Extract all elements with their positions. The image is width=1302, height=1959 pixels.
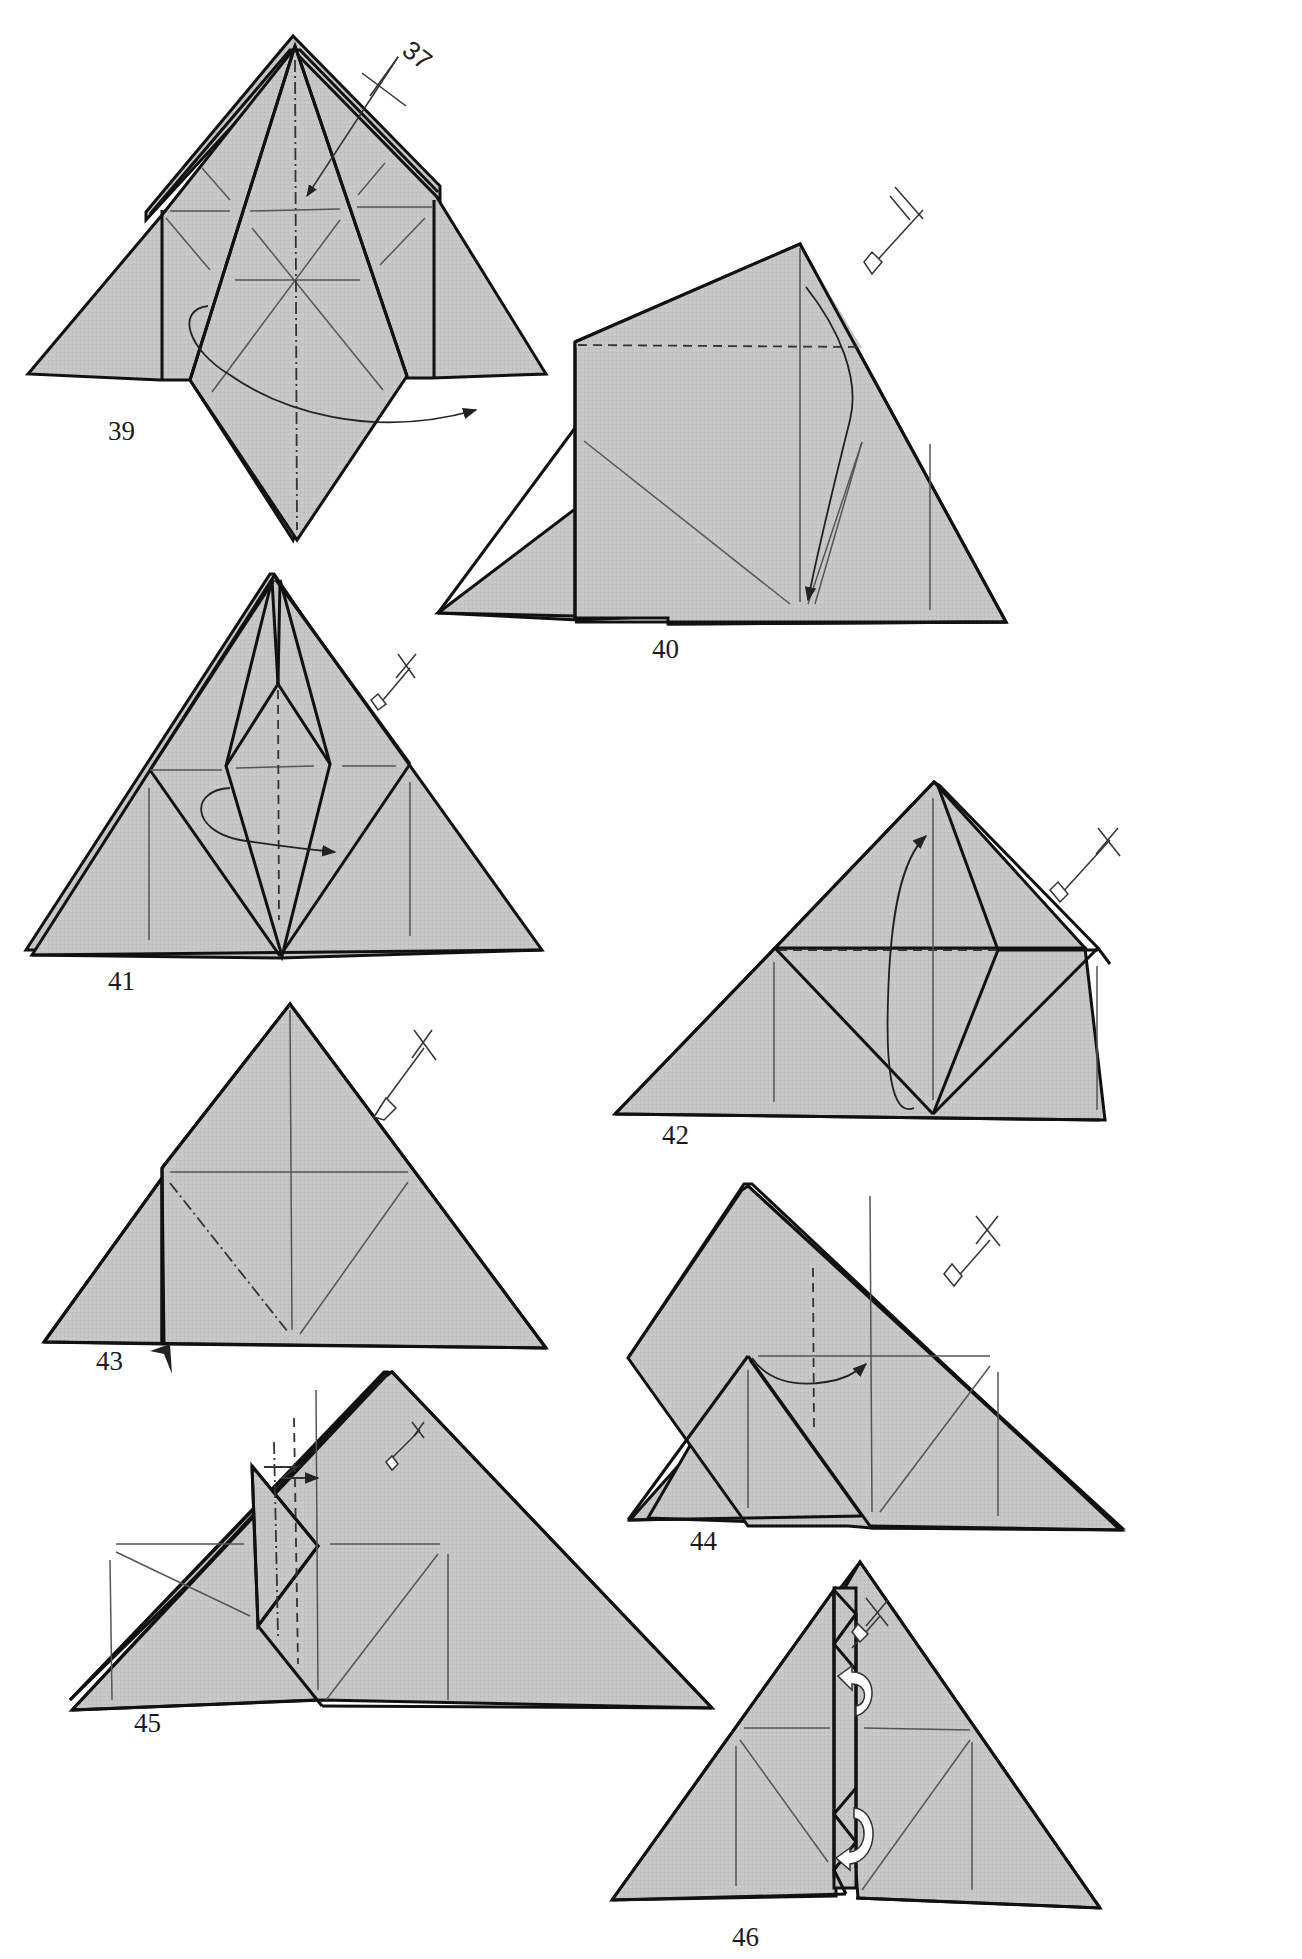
- step-number-41: 41: [108, 968, 135, 995]
- step-number-44: 44: [690, 1528, 717, 1555]
- origami-diagram-page: 37 39 40 41 42 43 44 45 46: [0, 0, 1302, 1959]
- step-42-diagram: [615, 782, 1120, 1120]
- diagram-canvas: [0, 0, 1302, 1959]
- step-39-diagram: [28, 36, 546, 540]
- step-number-43: 43: [96, 1348, 123, 1375]
- step-number-39: 39: [108, 418, 135, 445]
- step-number-42: 42: [662, 1122, 689, 1149]
- step-number-46: 46: [732, 1924, 759, 1951]
- step-number-45: 45: [134, 1710, 161, 1737]
- step-46-diagram: [612, 1562, 1100, 1908]
- step-40-diagram: [438, 187, 1006, 624]
- step-45-diagram: [70, 1372, 712, 1710]
- step-number-40: 40: [652, 636, 679, 663]
- step-41-diagram: [26, 574, 542, 958]
- step-44-diagram: [628, 1184, 1122, 1530]
- step-43-diagram: [44, 1004, 546, 1374]
